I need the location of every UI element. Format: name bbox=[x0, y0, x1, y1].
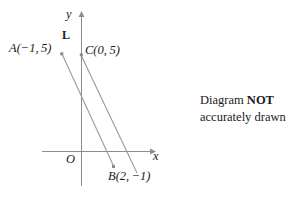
y-axis-label: y bbox=[66, 8, 72, 21]
point-label-c: C(0, 5) bbox=[85, 44, 120, 57]
note-emphasis: NOT bbox=[247, 93, 274, 107]
x-axis-label: x bbox=[153, 150, 159, 163]
note-line-2: accurately drawn bbox=[200, 109, 286, 126]
point-marker-b bbox=[112, 165, 115, 168]
point-marker-c bbox=[80, 53, 83, 56]
point-label-b: B(2, −1) bbox=[108, 170, 151, 183]
point-label-a: A(−1, 5) bbox=[9, 42, 52, 55]
note-line-1: Diagram NOT bbox=[200, 92, 286, 109]
diagram-page: A(−1, 5) C(0, 5) B(2, −1) L O x y Diagra… bbox=[0, 0, 290, 204]
note-line-1-prefix: Diagram bbox=[200, 93, 247, 107]
line-label-l: L bbox=[62, 29, 70, 41]
not-accurately-drawn-note: Diagram NOT accurately drawn bbox=[200, 92, 286, 125]
y-axis-arrowhead bbox=[79, 11, 85, 17]
point-marker-a bbox=[60, 52, 63, 55]
origin-label: O bbox=[66, 153, 75, 166]
